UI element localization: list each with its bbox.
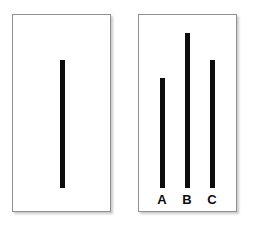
line-label-a: A bbox=[151, 193, 173, 206]
line-label-b: B bbox=[176, 193, 198, 206]
comparison-line-c bbox=[210, 60, 215, 188]
asch-line-stimulus-figure: A B C bbox=[0, 0, 255, 226]
reference-line bbox=[60, 60, 65, 188]
reference-card bbox=[12, 14, 111, 212]
line-label-c: C bbox=[201, 193, 223, 206]
comparison-line-b bbox=[185, 33, 190, 188]
comparison-card: A B C bbox=[138, 14, 237, 212]
comparison-line-a bbox=[160, 78, 165, 188]
